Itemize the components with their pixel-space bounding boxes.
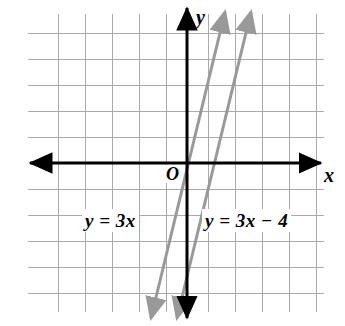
graph-canvas [0, 0, 345, 326]
origin-label: O [165, 165, 180, 183]
equation-label-line1: y = 3x [82, 209, 139, 232]
x-axis-label: x [324, 165, 334, 185]
coordinate-plane-figure: y x O y = 3x y = 3x − 4 [0, 0, 345, 326]
y-axis-label: y [196, 7, 205, 27]
equation-label-line2: y = 3x − 4 [202, 209, 291, 232]
